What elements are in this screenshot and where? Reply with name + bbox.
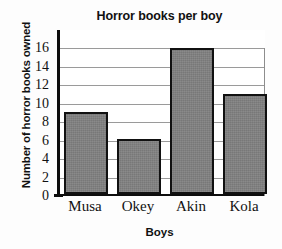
y-tick-label-4: 4 <box>42 152 49 166</box>
y-tick-label-16: 16 <box>35 41 49 55</box>
y-tick-label-6: 6 <box>42 134 49 148</box>
x-tick-label-musa: Musa <box>57 198 113 215</box>
plot-area <box>57 30 265 196</box>
gridline-12 <box>60 85 265 86</box>
y-tick-label-0: 0 <box>42 189 49 203</box>
y-tick-label-2: 2 <box>42 171 49 185</box>
y-tick-label-12: 12 <box>35 78 49 92</box>
gridline-14 <box>60 67 265 68</box>
y-tick-label-10: 10 <box>35 97 49 111</box>
x-axis-tick-labels: Musa Okey Akin Kola <box>57 198 265 222</box>
y-tick-label-14: 14 <box>35 60 49 74</box>
bar-akin[interactable] <box>170 48 214 194</box>
x-axis-title: Boys <box>52 226 267 238</box>
x-tick-label-okey: Okey <box>110 198 166 215</box>
x-tick-label-akin: Akin <box>163 198 219 215</box>
x-axis-baseline <box>60 194 265 196</box>
x-tick-label-kola: Kola <box>216 198 272 215</box>
gridline-16 <box>60 48 265 49</box>
bar-kola[interactable] <box>223 94 267 194</box>
bar-chart-figure: Horror books per boy Number of horror bo… <box>0 0 282 249</box>
bar-okey[interactable] <box>117 139 161 194</box>
y-axis-tick-labels: 0 2 4 6 8 10 12 14 16 <box>0 30 55 200</box>
chart-title: Horror books per boy <box>52 9 267 23</box>
y-tick-label-8: 8 <box>42 115 49 129</box>
bar-musa[interactable] <box>64 112 108 194</box>
